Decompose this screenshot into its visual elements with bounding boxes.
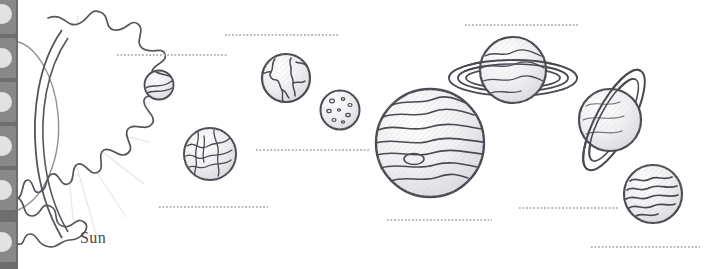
body-mars <box>317 87 363 133</box>
body-neptune <box>620 161 686 227</box>
rail-thumbnail-6[interactable] <box>0 222 16 262</box>
body-sun <box>18 2 168 252</box>
worksheet-canvas: Sun <box>18 0 725 269</box>
rail-thumb-art-2 <box>0 48 12 68</box>
rail-thumbnail-2[interactable] <box>0 38 16 78</box>
worksheet-page: Sun <box>0 0 725 269</box>
answer-line-venus[interactable] <box>158 206 268 208</box>
rail-thumbnail-5[interactable] <box>0 170 16 210</box>
answer-line-saturn[interactable] <box>464 24 578 26</box>
rail-thumbnail-1[interactable] <box>0 0 16 34</box>
answer-line-uranus[interactable] <box>518 207 618 209</box>
body-mercury <box>142 68 176 102</box>
body-earth <box>258 50 314 106</box>
answer-line-earth[interactable] <box>224 34 338 36</box>
rail-thumb-art-1 <box>0 4 12 24</box>
sun-label: Sun <box>80 229 106 247</box>
thumbnail-rail[interactable] <box>0 0 18 269</box>
answer-line-neptune[interactable] <box>590 246 700 248</box>
rail-thumb-art-6 <box>0 232 12 252</box>
answer-line-mars[interactable] <box>255 149 369 151</box>
rail-thumb-art-4 <box>0 136 12 156</box>
answer-line-mercury[interactable] <box>116 54 228 56</box>
rail-thumbnail-3[interactable] <box>0 82 16 122</box>
rail-thumb-art-5 <box>0 180 12 200</box>
rail-thumbnail-4[interactable] <box>0 126 16 166</box>
answer-line-jupiter[interactable] <box>386 219 492 221</box>
body-venus <box>180 124 240 184</box>
rail-thumb-art-3 <box>0 92 12 112</box>
